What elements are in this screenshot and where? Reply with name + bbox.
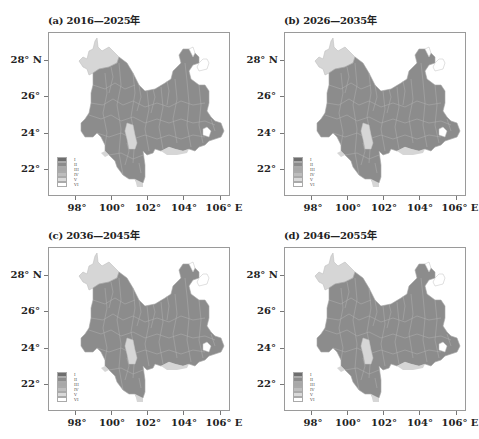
legend-label: VI [310,397,315,402]
x-tick-label: 104° [171,202,197,213]
legend-label: VI [310,182,315,187]
map-legend: IIIIIIIVVVI [293,372,303,402]
x-tickmark [311,411,312,415]
x-tick-label: 100° [335,202,361,213]
map-frame: IIIIIIIVVVI [48,247,230,411]
x-tickmark [111,411,112,415]
map-frame: IIIIIIIVVVI [48,32,230,196]
map-panel-a: (a) 2016—2025年 28° N 26° 24° 22° [0,0,236,215]
x-tickmark [147,411,148,415]
y-tick-label: 22° [0,378,40,389]
map-panel-c: (c) 2036—2045年 28° N 26° 24° 22° [0,215,236,430]
legend-swatch [293,397,303,402]
y-tick-label: 24° [236,127,276,138]
x-tick-label: 102° [371,202,397,213]
x-tickmark [383,196,384,200]
x-tickmark [456,196,457,200]
legend-label: VI [74,182,79,187]
x-tickmark [220,411,221,415]
legend-swatch [57,397,67,402]
y-tick-label: 26° [236,90,276,101]
x-tick-label: 104° [407,202,433,213]
map-panel-b: (b) 2026—2035年 28° N 26° 24° 22° [236,0,472,215]
x-tick-label: 104° [171,417,197,428]
x-tick-label: 102° [135,202,161,213]
x-tick-label: 102° [135,417,161,428]
y-tick-label: 26° [0,305,40,316]
x-tickmark [419,196,420,200]
panel-title: (d) 2046—2055年 [284,227,377,242]
x-tickmark [456,411,457,415]
x-tickmark [347,411,348,415]
x-tickmark [111,196,112,200]
legend-swatch [293,182,303,187]
panel-title: (b) 2026—2035年 [284,12,377,27]
x-tick-label: 106° E [442,417,479,428]
x-tickmark [147,196,148,200]
x-tick-label: 102° [371,417,397,428]
y-tick-label: 28° N [238,54,278,65]
panel-title: (c) 2036—2045年 [48,227,140,242]
y-tick-label: 24° [0,127,40,138]
x-tick-label: 98° [68,202,87,213]
x-tickmark [183,411,184,415]
y-tick-label: 22° [236,378,276,389]
x-tickmark [75,196,76,200]
x-tick-label: 98° [304,202,323,213]
y-tick-label: 26° [236,305,276,316]
x-tick-label: 104° [407,417,433,428]
x-tickmark [347,196,348,200]
panel-title: (a) 2016—2025年 [48,12,140,27]
x-tick-label: 100° [335,417,361,428]
y-tick-label: 24° [0,342,40,353]
y-tick-label: 22° [0,163,40,174]
x-tickmark [383,411,384,415]
x-tick-label: 98° [304,417,323,428]
map-legend: IIIIIIIVVVI [57,157,67,187]
map-frame: IIIIIIIVVVI [284,32,466,196]
x-tickmark [220,196,221,200]
x-tick-label: 100° [99,202,125,213]
map-panel-d: (d) 2046—2055年 28° N 26° 24° 22° [236,215,472,430]
map-frame: IIIIIIIVVVI [284,247,466,411]
y-tick-label: 24° [236,342,276,353]
legend-label: VI [74,397,79,402]
x-tick-label: 98° [68,417,87,428]
x-tick-label: 106° E [442,202,479,213]
x-tickmark [75,411,76,415]
map-legend: IIIIIIIVVVI [57,372,67,402]
map-legend: IIIIIIIVVVI [293,157,303,187]
x-tickmark [419,411,420,415]
x-tickmark [311,196,312,200]
y-tick-label: 28° N [2,269,42,280]
y-tick-label: 28° N [238,269,278,280]
y-tick-label: 26° [0,90,40,101]
legend-swatch [57,182,67,187]
x-tickmark [183,196,184,200]
x-tick-label: 100° [99,417,125,428]
y-tick-label: 28° N [2,54,42,65]
y-tick-label: 22° [236,163,276,174]
